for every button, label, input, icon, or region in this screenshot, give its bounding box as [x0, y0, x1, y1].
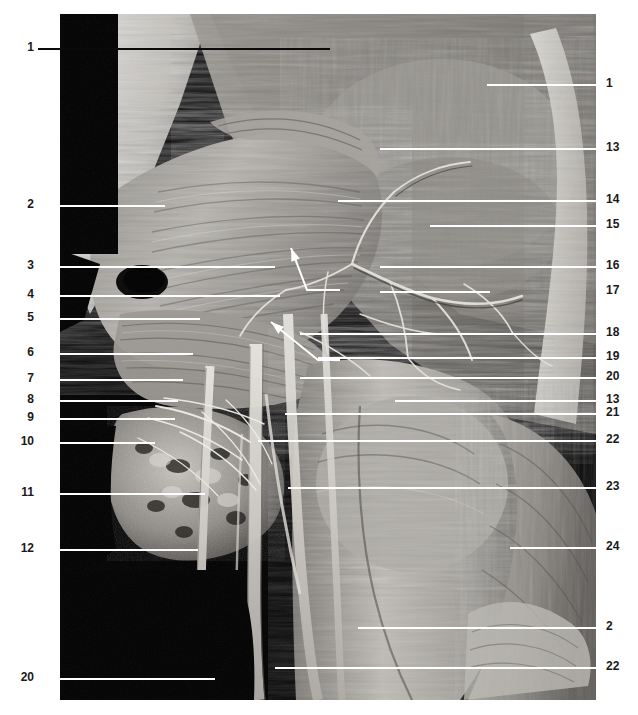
leader-line-right-23 [288, 487, 598, 489]
leader-line-left-11 [38, 493, 205, 495]
label-number-right-22: 22 [606, 660, 619, 672]
label-number-left-4: 4 [14, 288, 34, 300]
leader-line-left-4 [38, 295, 280, 297]
leader-line-right-1 [487, 84, 598, 86]
label-number-left-3: 3 [14, 259, 34, 271]
leader-line-left-1 [38, 48, 330, 50]
leader-line-right-22 [258, 440, 598, 442]
leader-line-right-15 [430, 225, 598, 227]
label-number-left-6: 6 [14, 346, 34, 358]
label-number-right-2: 2 [606, 620, 613, 632]
label-number-right-21: 21 [606, 406, 619, 418]
leader-line-right-2 [358, 627, 598, 629]
label-number-right-23: 23 [606, 480, 619, 492]
leader-line-right-16 [380, 266, 598, 268]
label-number-right-18: 18 [606, 326, 619, 338]
leader-line-left-7 [38, 379, 183, 381]
leader-line-right-14 [338, 200, 598, 202]
label-number-right-16: 16 [606, 259, 619, 271]
label-number-left-5: 5 [14, 311, 34, 323]
label-number-right-13: 13 [606, 393, 619, 405]
leader-line-left-12 [38, 549, 198, 551]
label-number-left-7: 7 [14, 372, 34, 384]
leader-line-left-20 [38, 678, 215, 680]
leader-line-left-2 [38, 205, 165, 207]
leader-line-left-3 [38, 266, 275, 268]
label-number-right-19: 19 [606, 350, 619, 362]
leader-line-right-22 [275, 667, 598, 669]
label-number-left-20: 20 [14, 671, 34, 683]
label-number-right-24: 24 [606, 540, 619, 552]
label-number-left-10: 10 [14, 435, 34, 447]
label-number-left-9: 9 [14, 411, 34, 423]
leader-line-right-13 [380, 148, 598, 150]
leader-line-left-5 [38, 318, 200, 320]
label-number-left-12: 12 [14, 542, 34, 554]
label-number-left-11: 11 [14, 486, 34, 498]
label-number-right-1: 1 [606, 77, 613, 89]
label-number-right-15: 15 [606, 218, 619, 230]
leader-line-left-10 [38, 442, 155, 444]
leader-line-left-9 [38, 418, 175, 420]
leader-line-left-8 [38, 400, 178, 402]
leader-line-right-18 [300, 333, 598, 335]
leader-line-right-21 [285, 413, 598, 415]
leader-line-right-24 [510, 547, 598, 549]
leader-line-right-17 [380, 291, 490, 293]
label-number-right-20: 20 [606, 370, 619, 382]
leader-line-right-20 [300, 377, 598, 379]
label-number-right-17: 17 [606, 284, 619, 296]
label-number-left-8: 8 [14, 393, 34, 405]
label-number-left-2: 2 [14, 198, 34, 210]
label-number-left-1: 1 [14, 41, 34, 53]
leader-line-left-6 [38, 353, 193, 355]
label-number-right-14: 14 [606, 193, 619, 205]
label-number-right-22: 22 [606, 433, 619, 445]
label-number-right-13: 13 [606, 141, 619, 153]
leader-line-right-19 [318, 357, 598, 359]
leader-line-right-13 [395, 400, 598, 402]
figure-page: 1234567891011122011314151617181920132122… [0, 0, 638, 715]
